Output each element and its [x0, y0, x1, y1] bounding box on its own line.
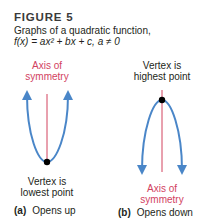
panel-letter-b: (b)	[118, 207, 131, 218]
panel-description-a: Opens up	[32, 205, 75, 216]
vertex-label-a: Vertex is lowest point	[12, 176, 82, 198]
panel-letter-a: (a)	[14, 205, 26, 216]
vertex-label-b: Vertex is highest point	[126, 60, 198, 82]
axis-label-a: Axis of symmetry	[17, 60, 77, 82]
parabola-up	[27, 94, 68, 165]
subcaption-b: (b)Opens down	[118, 207, 193, 218]
axis-label-b: Axis of symmetry	[132, 183, 192, 205]
vertex-point-b	[159, 97, 165, 103]
vertex-point-a	[44, 159, 50, 165]
panel-description-b: Opens down	[137, 207, 193, 218]
parabola-down	[142, 90, 182, 172]
subcaption-a: (a)Opens up	[14, 205, 76, 216]
